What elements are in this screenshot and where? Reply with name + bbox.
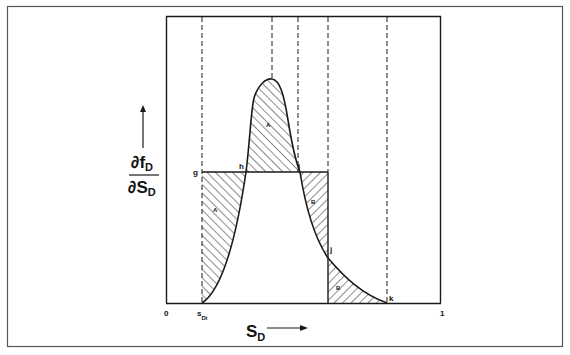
- region-b-upper-label: B: [311, 199, 316, 205]
- region-a-lower: [202, 172, 246, 303]
- x-tick-sdi: sDi: [197, 309, 208, 321]
- x-axis-arrow-icon: [300, 325, 308, 331]
- region-b-tail-label: B: [336, 285, 341, 291]
- x-axis-label: SD: [246, 322, 265, 343]
- region-b-tail: [328, 258, 387, 303]
- y-axis-label-numerator: ∂fD: [131, 153, 153, 173]
- point-g-label: g: [193, 168, 198, 177]
- region-a-peak: [246, 79, 300, 172]
- y-axis-label-denominator: ∂SD: [128, 178, 156, 198]
- y-axis-arrow-icon: [140, 105, 146, 112]
- point-j-label: j: [329, 245, 332, 254]
- outer-frame: [8, 7, 563, 347]
- x-tick-end: 1: [440, 309, 445, 318]
- x-tick-origin: 0: [164, 309, 169, 318]
- region-a-peak-label: A: [266, 122, 271, 128]
- point-k-label: k: [389, 294, 394, 303]
- point-h-label: h: [239, 162, 244, 171]
- fractional-flow-derivative-diagram: g h i j k A A B B 0 sDi 1 SD ∂fD ∂SD: [0, 0, 570, 355]
- region-a-lower-label: A: [213, 207, 218, 213]
- region-b-upper: [300, 172, 328, 258]
- point-i-label: i: [298, 162, 300, 171]
